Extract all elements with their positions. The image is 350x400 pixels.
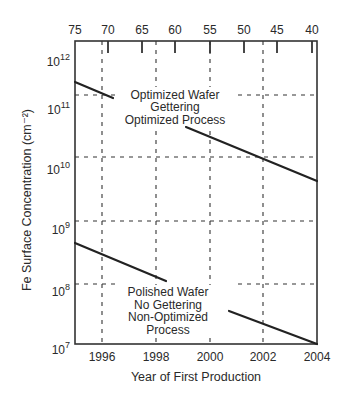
annotation-optimized: Optimized Wafer Gettering Optimized Proc… xyxy=(116,87,238,127)
top-tick-label: 45 xyxy=(270,23,284,37)
x-axis-title: Year of First Production xyxy=(131,370,261,384)
annotation-polished: Polished Wafer No Gettering Non-Optimize… xyxy=(118,285,218,337)
y-tick-label-1e12: 1012 xyxy=(47,52,70,69)
series-optimized-segment-1 xyxy=(75,82,113,98)
y-tick-label-1e10: 1010 xyxy=(47,160,70,177)
y-tick-label-1e8: 108 xyxy=(52,282,70,299)
y-axis-title: Fe Surface Concentration (cm⁻²) xyxy=(20,109,34,291)
x-tick-label: 2000 xyxy=(197,350,224,364)
top-tick-label: 50 xyxy=(237,23,251,37)
x-tick-label: 1996 xyxy=(89,350,116,364)
top-tick-label: 65 xyxy=(135,23,149,37)
x-tick-label: 1998 xyxy=(143,350,170,364)
top-tick-label: 40 xyxy=(305,23,319,37)
x-tick-label: 2002 xyxy=(250,350,277,364)
top-axis-ticks xyxy=(108,41,312,53)
top-axis-labels: 75 70 65 60 55 50 45 40 xyxy=(68,23,319,37)
y-tick-label-1e9: 109 xyxy=(52,220,70,237)
series-polished-segment-1 xyxy=(75,243,166,281)
annotation-line: Gettering xyxy=(150,100,199,114)
y-axis-labels: 1012 1011 1010 109 108 107 xyxy=(47,52,70,357)
y-tick-label-1e7: 107 xyxy=(52,340,70,357)
x-axis-labels: 1996 1998 2000 2002 2004 xyxy=(89,350,331,364)
annotation-line: Polished Wafer xyxy=(128,285,209,299)
chart: 75 70 65 60 55 50 45 40 1012 1011 1010 1… xyxy=(0,0,350,400)
annotation-line: Optimized Process xyxy=(125,113,226,127)
annotation-line: Process xyxy=(146,323,189,337)
top-tick-label: 60 xyxy=(168,23,182,37)
top-tick-label: 75 xyxy=(68,23,82,37)
top-tick-label: 70 xyxy=(101,23,115,37)
series-polished-segment-2 xyxy=(229,311,317,344)
annotation-line: Non-Optimized xyxy=(128,310,208,324)
top-tick-label: 55 xyxy=(203,23,217,37)
x-tick-label: 2004 xyxy=(304,350,331,364)
series-optimized-segment-2 xyxy=(186,127,317,181)
y-tick-label-1e11: 1011 xyxy=(47,100,70,117)
